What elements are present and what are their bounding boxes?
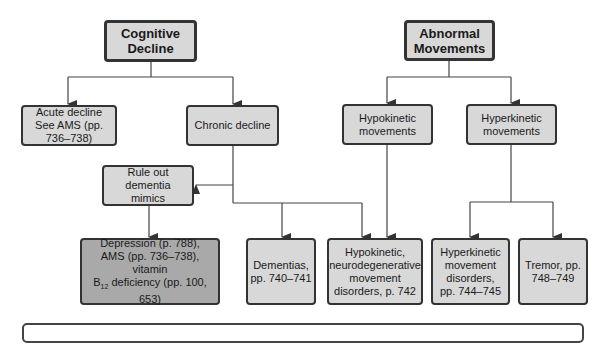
- node-depression-ams-b12: Depression (p. 788), AMS (pp. 736–738), …: [80, 238, 220, 305]
- node-hypokinetic-movements: Hypokinetic movements: [342, 104, 433, 145]
- node-rule-out-dementia-mimics: Rule out dementia mimics: [102, 165, 194, 206]
- node-chronic-decline: Chronic decline: [186, 105, 279, 146]
- node-label: Dementias, pp. 740–741: [250, 259, 312, 285]
- node-hypokinetic-neurodegenerative: Hypokinetic, neurodegenerative movement …: [327, 238, 423, 305]
- node-label: Acute decline See AMS (pp. 736–738): [25, 106, 113, 145]
- node-tremor: Tremor, pp. 748–749: [518, 238, 588, 305]
- node-hyperkinetic-movements: Hyperkinetic movements: [466, 104, 557, 145]
- node-label: Hyperkinetic movements: [470, 112, 553, 138]
- node-label: Tremor, pp. 748–749: [522, 259, 584, 285]
- node-dementias: Dementias, pp. 740–741: [246, 238, 316, 305]
- node-label: Hyperkinetic movement disorders, pp. 744…: [435, 246, 506, 298]
- node-label: Rule out dementia mimics: [106, 166, 190, 205]
- node-label-line2: AMS (pp. 736–738), vitamin: [84, 250, 216, 276]
- node-label: Chronic decline: [195, 119, 271, 132]
- node-label: Abnormal Movements: [409, 26, 490, 56]
- node-label: Cognitive Decline: [109, 26, 192, 56]
- node-cognitive-decline: Cognitive Decline: [104, 20, 197, 62]
- node-label-line3: B12 deficiency (pp. 100, 653): [84, 276, 216, 306]
- node-label: Hypokinetic, neurodegenerative movement …: [329, 246, 421, 298]
- node-acute-decline: Acute decline See AMS (pp. 736–738): [21, 105, 117, 146]
- node-hyperkinetic-movement-disorders: Hyperkinetic movement disorders, pp. 744…: [431, 238, 510, 305]
- node-abnormal-movements: Abnormal Movements: [404, 20, 495, 61]
- node-label-line1: Depression (p. 788),: [100, 237, 200, 250]
- bottom-panel-edge: [22, 323, 584, 343]
- node-label: Hypokinetic movements: [345, 112, 430, 138]
